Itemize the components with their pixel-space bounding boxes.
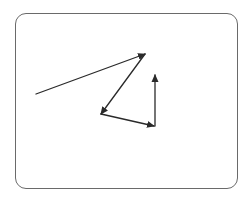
segment-1-arrow [36,54,145,94]
segment-2-arrow [101,54,145,114]
segment-3-arrow [101,114,154,126]
vector-segments [36,54,155,126]
vector-diagram [0,0,252,199]
